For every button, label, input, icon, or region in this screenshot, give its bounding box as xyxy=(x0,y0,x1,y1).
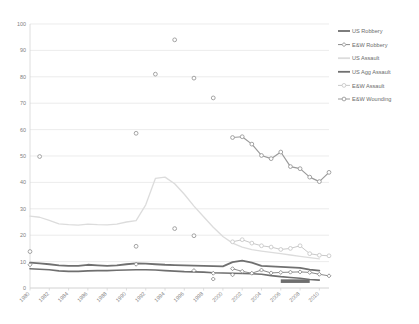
data-point-marker xyxy=(327,274,331,278)
x-tick-label: 1984 xyxy=(57,290,70,303)
x-tick-label: 2004 xyxy=(249,290,262,303)
data-point-marker xyxy=(279,270,283,274)
y-tick-label: 20 xyxy=(20,232,26,238)
data-point-marker xyxy=(28,250,32,254)
data-point-marker xyxy=(308,252,312,256)
highlight-bar-rect xyxy=(281,279,310,283)
data-point-marker xyxy=(134,244,138,248)
highlight-bar xyxy=(281,279,310,283)
legend-label: US Robbery xyxy=(352,28,383,34)
legend-label: E&W Assault xyxy=(352,83,385,89)
x-tick-label: 1980 xyxy=(18,290,31,303)
data-point-marker xyxy=(259,268,263,272)
data-point-marker xyxy=(231,240,235,244)
series-us-robbery xyxy=(30,269,319,280)
data-point-marker xyxy=(269,245,273,249)
data-point-marker xyxy=(308,175,312,179)
x-tick-label: 2008 xyxy=(288,290,301,303)
data-point-marker xyxy=(269,157,273,161)
x-tick-label: 1990 xyxy=(114,290,127,303)
y-tick-label: 10 xyxy=(20,259,26,265)
x-tick-label: 1996 xyxy=(172,290,185,303)
data-point-marker xyxy=(211,96,215,100)
data-point-marker xyxy=(279,248,283,252)
data-point-marker xyxy=(134,131,138,135)
y-tick-label: 30 xyxy=(20,206,26,212)
data-point-marker xyxy=(211,277,215,281)
x-tick-label: 2000 xyxy=(211,290,224,303)
data-point-marker xyxy=(260,244,264,248)
x-tick-label: 1998 xyxy=(192,290,205,303)
data-point-marker xyxy=(298,244,302,248)
y-tick-label: 60 xyxy=(20,127,26,133)
scatter-points xyxy=(28,38,235,281)
data-point-marker xyxy=(327,170,331,174)
x-tick-label: 2010 xyxy=(307,290,320,303)
data-point-marker xyxy=(231,136,235,140)
legend-label: E&W Robbery xyxy=(352,42,388,48)
y-tick-label: 50 xyxy=(20,153,26,159)
legend-item-us-robbery[interactable]: US Robbery xyxy=(338,28,383,34)
data-point-marker xyxy=(240,238,244,242)
x-tick-label: 2006 xyxy=(269,290,282,303)
data-point-marker xyxy=(260,154,264,158)
series-path xyxy=(233,137,329,182)
x-tick-label: 1988 xyxy=(95,290,108,303)
data-point-marker xyxy=(298,270,302,274)
grid-lines xyxy=(30,24,329,288)
chart-container: 0102030405060708090100 19801982198419861… xyxy=(0,0,419,324)
x-tick-label: 2002 xyxy=(230,290,243,303)
legend-item-us-assault[interactable]: US Assault xyxy=(338,55,380,61)
data-point-marker xyxy=(317,253,321,257)
data-point-marker xyxy=(279,150,283,154)
legend-label: US Assault xyxy=(352,55,380,61)
data-point-marker xyxy=(250,241,254,245)
legend-item-e-w-assault[interactable]: E&W Assault xyxy=(338,83,385,89)
y-axis-labels: 0102030405060708090100 xyxy=(17,21,26,291)
legend-label: E&W Wounding xyxy=(352,96,391,102)
x-tick-label: 1986 xyxy=(76,290,89,303)
x-tick-label: 1994 xyxy=(153,290,166,303)
data-point-marker xyxy=(342,43,346,47)
y-tick-label: 90 xyxy=(20,47,26,53)
y-tick-label: 100 xyxy=(17,21,26,27)
data-point-marker xyxy=(153,72,157,76)
y-tick-label: 70 xyxy=(20,100,26,106)
data-point-marker xyxy=(317,180,321,184)
y-tick-label: 80 xyxy=(20,74,26,80)
legend-item-e-w-wounding[interactable]: E&W Wounding xyxy=(338,96,391,102)
y-tick-label: 40 xyxy=(20,179,26,185)
data-point-marker xyxy=(288,270,292,274)
chart-legend: US RobberyE&W RobberyUS AssaultUS Agg As… xyxy=(338,28,391,102)
series-us-assault xyxy=(30,177,319,259)
series-e-w-wounding xyxy=(231,135,331,184)
x-axis-labels: 1980198219841986198819901992199419961998… xyxy=(18,290,320,303)
data-point-marker xyxy=(342,97,346,101)
data-point-marker xyxy=(298,167,302,171)
series-us-agg-assault xyxy=(30,261,319,271)
data-point-marker xyxy=(240,135,244,139)
data-point-marker xyxy=(250,142,254,146)
data-point-marker xyxy=(317,272,321,276)
data-point-marker xyxy=(173,38,177,42)
data-point-marker xyxy=(192,234,196,238)
data-point-marker xyxy=(342,84,346,88)
series-path xyxy=(30,261,319,271)
data-point-marker xyxy=(38,155,42,159)
x-tick-label: 1992 xyxy=(134,290,147,303)
legend-item-e-w-robbery[interactable]: E&W Robbery xyxy=(338,42,388,48)
legend-item-us-agg-assault[interactable]: US Agg Assault xyxy=(338,69,391,75)
series-path xyxy=(30,177,319,259)
data-point-marker xyxy=(289,247,293,251)
crime-rate-line-chart: 0102030405060708090100 19801982198419861… xyxy=(0,0,419,324)
data-point-marker xyxy=(173,227,177,231)
data-point-marker xyxy=(192,76,196,80)
series-path xyxy=(30,269,319,280)
data-point-marker xyxy=(289,165,293,169)
data-point-marker xyxy=(231,267,235,271)
data-point-marker xyxy=(327,254,331,258)
series-lines xyxy=(30,135,331,280)
legend-label: US Agg Assault xyxy=(352,69,391,75)
x-tick-label: 1982 xyxy=(37,290,50,303)
data-point-marker xyxy=(269,271,273,275)
